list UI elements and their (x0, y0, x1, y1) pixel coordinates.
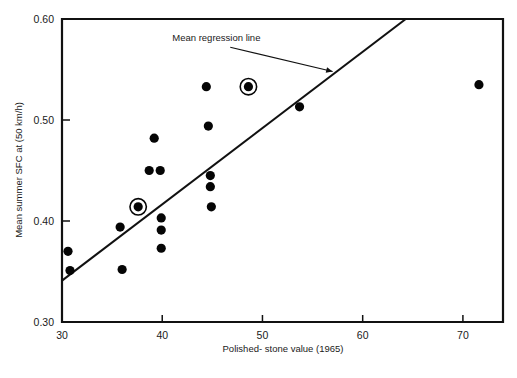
x-tick-label: 60 (357, 329, 369, 341)
x-tick-label: 40 (156, 329, 168, 341)
y-axis-tick-labels: 0.300.400.500.60 (34, 13, 55, 328)
x-tick-label: 50 (257, 329, 269, 341)
data-point (150, 134, 159, 143)
x-axis-title: Polished- stone value (1965) (223, 343, 344, 354)
data-point (204, 121, 213, 130)
data-point (157, 213, 166, 222)
y-tick-label: 0.30 (34, 316, 55, 328)
annotation-arrowhead (326, 67, 333, 73)
annotation-text: Mean regression line (172, 32, 260, 43)
data-point (206, 171, 215, 180)
regression-line-path (62, 19, 406, 281)
chart-canvas: 3040506070 0.300.400.500.60 Mean regress… (0, 0, 517, 378)
data-point (474, 80, 483, 89)
data-point (206, 182, 215, 191)
data-point (65, 266, 74, 275)
x-tick-label: 30 (56, 329, 68, 341)
data-point-highlighted (134, 202, 143, 211)
data-point (156, 166, 165, 175)
plot-frame (62, 19, 503, 322)
y-axis-title: Mean summer SFC at (50 km/h) (13, 102, 24, 238)
data-point (295, 102, 304, 111)
y-tick-label: 0.50 (34, 114, 55, 126)
y-tick-label: 0.40 (34, 215, 55, 227)
data-point (207, 202, 216, 211)
x-axis-tick-labels: 3040506070 (56, 329, 469, 341)
data-point (118, 265, 127, 274)
y-tick-label: 0.60 (34, 13, 55, 25)
data-point (157, 225, 166, 234)
data-point (63, 247, 72, 256)
x-tick-label: 70 (457, 329, 469, 341)
data-point (145, 166, 154, 175)
data-point (157, 244, 166, 253)
regression-line-annotation: Mean regression line (172, 32, 332, 73)
y-axis-ticks (62, 120, 70, 221)
data-point-highlighted (244, 82, 253, 91)
data-point (202, 82, 211, 91)
mean-regression-line (62, 19, 406, 281)
scatter-plot-figure: 3040506070 0.300.400.500.60 Mean regress… (0, 0, 517, 378)
data-point (116, 222, 125, 231)
data-points (63, 78, 483, 275)
